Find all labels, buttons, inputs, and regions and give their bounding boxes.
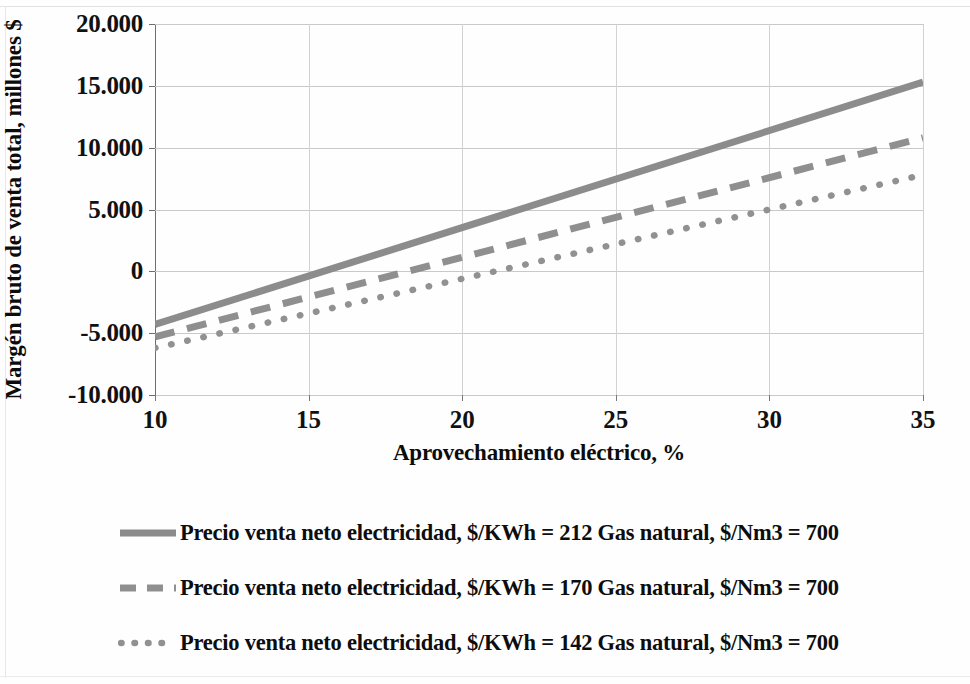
y-tick-label: -5.000 [80,319,143,347]
y-tick-label: 0 [131,257,143,285]
x-tick-mark [769,395,770,401]
x-axis-title: Aprovechamiento eléctrico, % [155,440,923,466]
x-tick-mark [616,395,617,401]
chart-page: Margén bruto de venta total, millones $ … [0,0,970,684]
gridline-vertical [923,24,924,395]
x-tick-label: 20 [450,406,475,434]
legend-label: Precio venta neto electricidad, $/KWh = … [180,575,839,601]
legend-key-dotted-icon [118,633,178,653]
gridline-horizontal [155,395,923,396]
legend-label: Precio venta neto electricidad, $/KWh = … [180,520,839,546]
scan-edge-bottom [0,676,970,677]
legend-item[interactable]: Precio venta neto electricidad, $/KWh = … [118,615,918,670]
y-tick-label: 5.000 [88,196,143,224]
x-tick-mark [309,395,310,401]
chart-legend: Precio venta neto electricidad, $/KWh = … [118,505,918,670]
scan-edge-top [0,6,970,7]
legend-item[interactable]: Precio venta neto electricidad, $/KWh = … [118,505,918,560]
x-tick-label: 15 [296,406,321,434]
legend-item[interactable]: Precio venta neto electricidad, $/KWh = … [118,560,918,615]
series-lines [155,24,923,395]
x-tick-label: 25 [603,406,628,434]
legend-key-dashed-icon [118,578,178,598]
legend-key-solid-icon [118,523,178,543]
x-tick-label: 35 [911,406,936,434]
legend-label: Precio venta neto electricidad, $/KWh = … [180,630,839,656]
plot-area: 20.00015.00010.0005.0000-5.000-10.000 10… [155,24,923,395]
x-tick-label: 10 [143,406,168,434]
x-tick-mark [462,395,463,401]
y-axis-title: Margén bruto de venta total, millones $ [0,24,30,395]
y-tick-label: 20.000 [76,10,143,38]
x-tick-mark [155,395,156,401]
y-tick-label: 10.000 [76,134,143,162]
y-tick-label: 15.000 [76,72,143,100]
x-tick-mark [923,395,924,401]
series-line [155,82,923,324]
y-tick-label: -10.000 [68,381,143,409]
series-line [155,138,923,337]
x-tick-label: 30 [757,406,782,434]
